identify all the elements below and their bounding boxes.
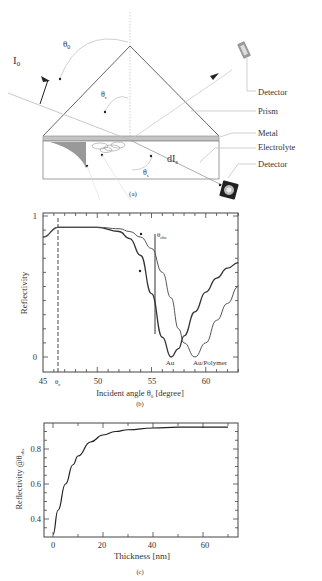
panel-a-diagram: I0 θ0 θc θs dIs Detector Prism Metal Ele… (8, 12, 296, 200)
plot-c-ticks (44, 423, 238, 537)
caption-a: (a) (129, 190, 137, 198)
plot-c-xlabel: Thickness [nm] (114, 551, 170, 561)
xtick-60: 60 (201, 540, 210, 550)
figure: I0 θ0 θc θs dIs Detector Prism Metal Ele… (0, 0, 322, 581)
detector-bottom-icon (219, 180, 239, 200)
theta0-label: θ0 (63, 39, 70, 50)
thetac-tick-label: θc (55, 378, 61, 387)
ytick-0-4: 0.4 (30, 514, 41, 524)
reflected-arrow-icon (210, 73, 219, 80)
xtick-0: 0 (51, 540, 55, 550)
prism-label: Prism (258, 106, 278, 116)
reflected-beam (130, 70, 232, 140)
caption-c: (c) (136, 568, 143, 576)
panel-c-chart: 0.4 0.6 0.8 0 20 40 60 Reflectivity @θob… (14, 423, 238, 576)
detector-top-icon (237, 41, 251, 59)
xtick-20: 20 (98, 540, 107, 550)
incident-intensity-label: I0 (13, 54, 21, 68)
curve-au-polymer (43, 227, 238, 357)
caption-b: (b) (136, 400, 144, 408)
ytick-0-6: 0.6 (30, 479, 41, 489)
xtick-60: 60 (202, 376, 211, 386)
ytick-0: 0 (33, 352, 37, 362)
xtick-55: 55 (148, 376, 157, 386)
detector-top-label: Detector (258, 87, 287, 97)
xtick-40: 40 (148, 540, 157, 550)
plot-b-ylabel: Reflectivity (19, 271, 29, 314)
xtick-45: 45 (39, 376, 48, 386)
au-polymer-label: Au/Polymer (193, 359, 228, 367)
au-label: Au (166, 359, 175, 367)
xtick-50: 50 (94, 376, 103, 386)
thetac-label: θc (101, 90, 108, 100)
curve-thickness (53, 427, 228, 535)
thetaobs-label: θobs (157, 231, 167, 240)
ytick-1: 1 (33, 211, 37, 221)
incident-beam (8, 93, 130, 140)
metal-label: Metal (258, 128, 278, 138)
plot-c-ylabel: Reflectivity @θobs (14, 448, 25, 509)
prism (43, 46, 219, 136)
panel-b-chart: 1 0 45 50 55 60 θc θobs Au Au/Polymer Re… (19, 211, 238, 408)
ytick-0-8: 0.8 (30, 444, 41, 454)
plot-b-xlabel: Incident angle θ0 [degree] (96, 388, 184, 399)
plot-c-frame (44, 423, 238, 537)
detector-bottom-label: Detector (258, 159, 287, 169)
incident-arrow-icon (41, 76, 50, 82)
electrolyte-label: Electrolyte (258, 142, 296, 152)
